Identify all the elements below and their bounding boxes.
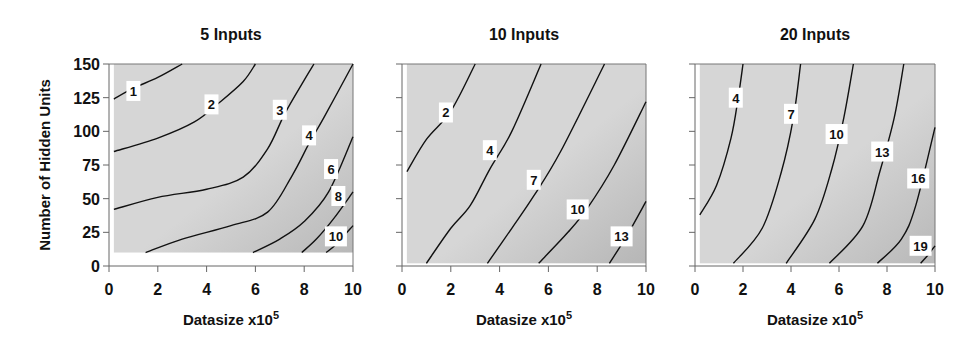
contour-label: 10: [829, 127, 843, 142]
contour-label: 10: [329, 229, 343, 244]
x-tick-label: 0: [105, 281, 114, 298]
contour-chart: Number of Hidden Units 5 Inputs123468100…: [0, 0, 975, 343]
x-tick-label: 2: [446, 281, 455, 298]
y-tick-label: 125: [73, 90, 100, 107]
contour-label: 13: [614, 229, 628, 244]
x-tick-label: 8: [593, 281, 602, 298]
contour-label: 2: [208, 97, 215, 112]
contour-label: 7: [787, 107, 794, 122]
contour-label: 16: [911, 171, 925, 186]
contour-label: 6: [327, 162, 334, 177]
panel-1: 5 Inputs1234681002468100255075100125150D…: [73, 26, 362, 328]
x-tick-label: 10: [637, 281, 655, 298]
x-tick-label: 2: [739, 281, 748, 298]
x-axis-label: Datasize x105: [767, 309, 863, 328]
contour-label: 8: [335, 189, 342, 204]
contour-label: 4: [305, 128, 313, 143]
x-tick-label: 8: [300, 281, 309, 298]
contour-label: 13: [875, 145, 889, 160]
x-tick-label: 4: [787, 281, 796, 298]
x-tick-label: 10: [344, 281, 362, 298]
y-axis-label: Number of Hidden Units: [36, 79, 53, 251]
x-axis-label: Datasize x105: [476, 309, 572, 328]
panel-3: 20 Inputs47101316190246810Datasize x105: [689, 26, 944, 328]
x-tick-label: 6: [544, 281, 553, 298]
y-tick-label: 75: [82, 157, 100, 174]
contour-label: 2: [442, 105, 449, 120]
panel-title: 10 Inputs: [489, 26, 559, 43]
contour-label: 3: [276, 103, 283, 118]
contour-label: 4: [732, 91, 740, 106]
x-tick-label: 4: [202, 281, 211, 298]
panel-2: 10 Inputs24710130246810Datasize x105: [396, 26, 655, 328]
panel-title: 5 Inputs: [200, 26, 261, 43]
y-tick-label: 100: [73, 123, 100, 140]
x-axis-label: Datasize x105: [183, 309, 279, 328]
x-tick-label: 6: [835, 281, 844, 298]
x-tick-label: 4: [495, 281, 504, 298]
x-tick-label: 0: [398, 281, 407, 298]
y-tick-label: 0: [91, 258, 100, 275]
contour-label: 1: [130, 84, 137, 99]
contour-label: 7: [530, 173, 537, 188]
x-tick-label: 10: [926, 281, 944, 298]
y-tick-label: 50: [82, 191, 100, 208]
x-tick-label: 6: [251, 281, 260, 298]
contour-figure: Number of Hidden Units 5 Inputs123468100…: [0, 0, 975, 343]
y-tick-label: 25: [82, 224, 100, 241]
x-tick-label: 0: [691, 281, 700, 298]
panel-title: 20 Inputs: [780, 26, 850, 43]
y-tick-label: 150: [73, 56, 100, 73]
contour-label: 4: [486, 143, 494, 158]
contour-label: 19: [913, 239, 927, 254]
x-tick-label: 8: [883, 281, 892, 298]
contour-label: 10: [570, 202, 584, 217]
data-region: [407, 64, 646, 263]
x-tick-label: 2: [153, 281, 162, 298]
